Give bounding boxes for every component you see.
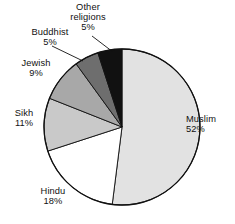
leader-line-buddhist xyxy=(52,46,83,61)
pie-slice-group xyxy=(44,49,200,205)
pie-chart: Other religions 5% Buddhist 5% Jewish 9%… xyxy=(0,0,235,224)
pie-slice-muslim xyxy=(112,49,200,205)
pie-chart-graphic xyxy=(0,0,235,224)
leader-line-other xyxy=(92,36,113,52)
